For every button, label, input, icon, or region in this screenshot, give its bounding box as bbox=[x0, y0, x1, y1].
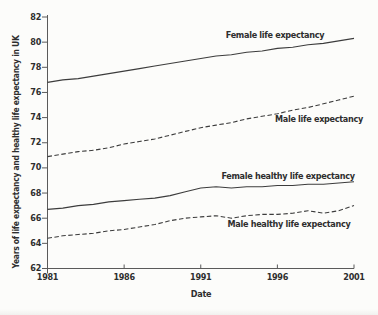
chart-canvas bbox=[0, 0, 378, 315]
y-tick-label: 76 bbox=[19, 87, 41, 98]
y-tick-label: 66 bbox=[19, 213, 41, 224]
series-line-female-life-expectancy bbox=[48, 38, 355, 82]
x-axis-title: Date bbox=[191, 289, 211, 299]
y-tick-label: 70 bbox=[19, 162, 41, 173]
y-tick-label: 82 bbox=[19, 12, 41, 23]
y-tick-label: 74 bbox=[19, 112, 41, 123]
x-tick-label: 1986 bbox=[107, 272, 141, 283]
y-tick-label: 78 bbox=[19, 62, 41, 73]
y-tick-label: 80 bbox=[19, 37, 41, 48]
x-tick-label: 1981 bbox=[31, 272, 65, 283]
series-label-male-life-expectancy: Male life expectancy bbox=[275, 114, 363, 124]
y-tick-label: 68 bbox=[19, 188, 41, 199]
series-label-female-life-expectancy: Female life expectancy bbox=[226, 30, 324, 40]
series-label-male-healthy-life-expectancy: Male healthy life expectancy bbox=[228, 219, 351, 229]
x-tick-label: 2001 bbox=[337, 272, 371, 283]
series-label-female-healthy-life-expectancy: Female healthy life expectancy bbox=[221, 171, 354, 181]
series-line-female-healthy-life-expectancy bbox=[48, 182, 355, 210]
y-tick-label: 64 bbox=[19, 238, 41, 249]
y-tick-label: 72 bbox=[19, 137, 41, 148]
x-tick-label: 1996 bbox=[260, 272, 294, 283]
scan-shadow bbox=[0, 309, 378, 315]
x-tick-label: 1991 bbox=[184, 272, 218, 283]
life-expectancy-chart: Years of life expectancy and healthy lif… bbox=[0, 0, 378, 315]
series-line-male-life-expectancy bbox=[48, 96, 355, 156]
